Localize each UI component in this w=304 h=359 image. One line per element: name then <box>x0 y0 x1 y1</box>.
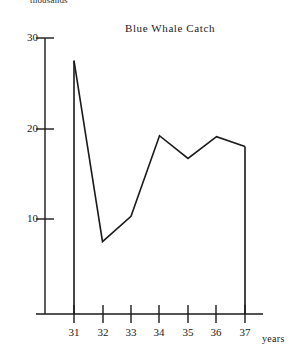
x-axis-group <box>36 305 263 323</box>
x-tick-label-36: 36 <box>205 326 227 338</box>
x-tick-label-37: 37 <box>234 326 256 338</box>
data-series-blue-whale-catch <box>74 61 245 314</box>
y-tick-label-20: 20 <box>12 122 38 134</box>
y-tick-label-10: 10 <box>12 212 38 224</box>
data-line <box>74 61 245 242</box>
chart-container: thousands Blue Whale Catch 30 20 10 31 3… <box>0 0 304 359</box>
x-tick-label-32: 32 <box>92 326 114 338</box>
y-axis-unit-label: thousands <box>30 0 68 5</box>
x-tick-label-31: 31 <box>63 326 85 338</box>
chart-title: Blue Whale Catch <box>0 22 304 34</box>
y-axis-group <box>36 38 54 314</box>
x-tick-label-35: 35 <box>177 326 199 338</box>
x-tick-label-33: 33 <box>120 326 142 338</box>
y-tick-label-30: 30 <box>12 31 38 43</box>
plot-area <box>0 0 304 359</box>
x-tick-label-34: 34 <box>148 326 170 338</box>
x-axis-title: years <box>262 333 285 344</box>
